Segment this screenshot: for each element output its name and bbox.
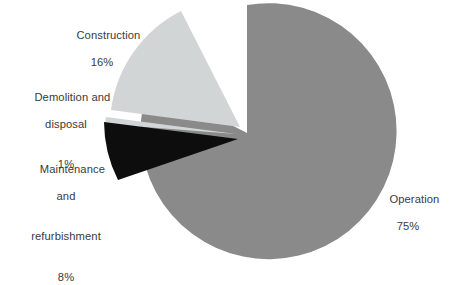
slice-label-operation: Operation 75% <box>368 180 448 260</box>
slice-label-maintenance-line2: and <box>6 190 126 203</box>
slice-label-construction-name: Construction <box>76 29 140 41</box>
slice-label-demolition-line2: disposal <box>6 118 126 131</box>
slice-label-maintenance: Maintenance and refurbishment 8% <box>6 150 126 285</box>
slice-label-operation-percent: 75% <box>368 220 448 233</box>
slice-label-maintenance-line3: refurbishment <box>6 230 126 243</box>
slice-label-demolition-line1: Demolition and <box>34 91 110 103</box>
slice-label-construction-percent: 16% <box>36 56 168 69</box>
slice-label-operation-name: Operation <box>389 193 439 205</box>
slice-label-maintenance-line1: Maintenance <box>40 163 105 175</box>
slice-label-maintenance-percent: 8% <box>6 271 126 284</box>
